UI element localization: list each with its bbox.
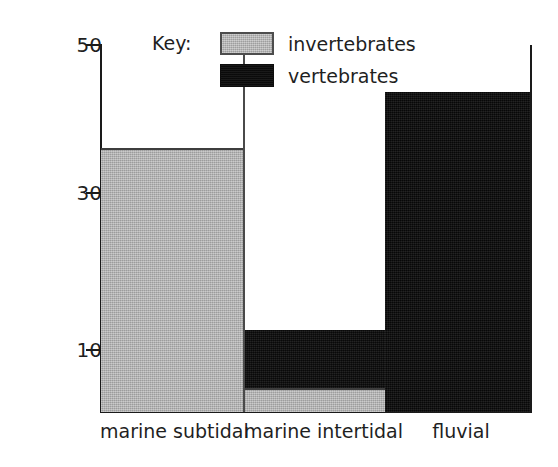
x-tick-label-marine-subtidal: marine subtidal — [100, 420, 246, 442]
bar-marine-subtidal[interactable] — [101, 148, 244, 412]
bar-segment-invertebrates — [101, 148, 244, 412]
legend-label-vertebrates: vertebrates — [288, 65, 398, 87]
legend-item-invertebrates[interactable]: invertebrates — [220, 30, 416, 57]
bar-chart-figure: rock volume, % 50 30 10 marine subt — [0, 0, 558, 467]
bar-marine-intertidal[interactable] — [244, 330, 385, 412]
legend-swatch-vertebrates — [220, 64, 274, 87]
bar-segment-vertebrates — [385, 92, 530, 412]
legend-item-vertebrates[interactable]: vertebrates — [220, 62, 416, 89]
plot-area — [100, 45, 531, 412]
x-tick-label-fluvial: fluvial — [388, 420, 534, 442]
legend-title: Key: — [152, 32, 191, 54]
y-tick-label-30: 30 — [56, 181, 102, 205]
x-tick-label-marine-intertidal: marine intertidal — [244, 420, 390, 442]
bar-divider-1 — [243, 45, 245, 412]
legend-label-invertebrates: invertebrates — [288, 33, 416, 55]
legend-entries: invertebrates vertebrates — [220, 30, 416, 94]
bar-fluvial[interactable] — [385, 92, 530, 412]
bar-segment-invertebrates — [244, 388, 385, 412]
bar-segment-vertebrates — [244, 330, 385, 387]
y-tick-label-50: 50 — [56, 33, 102, 57]
y-tick-label-10: 10 — [56, 338, 102, 362]
legend-swatch-invertebrates — [220, 32, 274, 55]
